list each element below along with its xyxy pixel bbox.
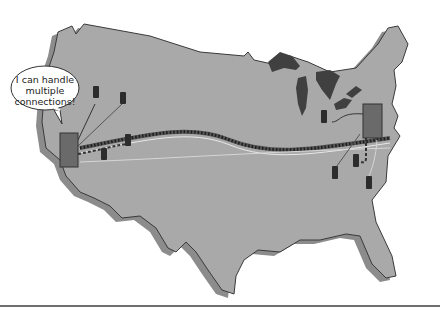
server-icon[interactable]: [120, 92, 126, 104]
server-icon[interactable]: [366, 176, 372, 189]
server-icon[interactable]: [125, 134, 131, 146]
diagram-canvas: I can handle multiple connections!: [0, 0, 440, 312]
server-icon[interactable]: [353, 154, 359, 167]
bubble-line-1: I can handle: [14, 74, 76, 85]
server-icon[interactable]: [321, 110, 327, 123]
server-icon[interactable]: [332, 166, 338, 179]
bubble-line-2: multiple: [14, 85, 76, 96]
west-hub-server[interactable]: [60, 133, 78, 167]
server-icon[interactable]: [101, 148, 107, 160]
speech-bubble-text: I can handle multiple connections!: [14, 74, 76, 107]
bubble-line-3: connections!: [14, 96, 76, 107]
east-hub-server[interactable]: [363, 104, 382, 138]
server-icon[interactable]: [93, 86, 99, 98]
bottom-divider: [0, 305, 440, 307]
